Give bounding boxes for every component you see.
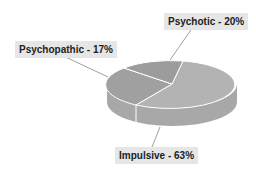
label-psychopathic: Psychopathic - 17%	[15, 41, 117, 58]
label-impulsive: Impulsive - 63%	[115, 147, 198, 164]
leader-psychotic	[170, 27, 193, 60]
leader-impulsive	[152, 127, 160, 147]
pie-chart: Psychotic - 20% Psychopathic - 17% Impul…	[0, 0, 256, 173]
label-psychotic: Psychotic - 20%	[164, 13, 248, 30]
